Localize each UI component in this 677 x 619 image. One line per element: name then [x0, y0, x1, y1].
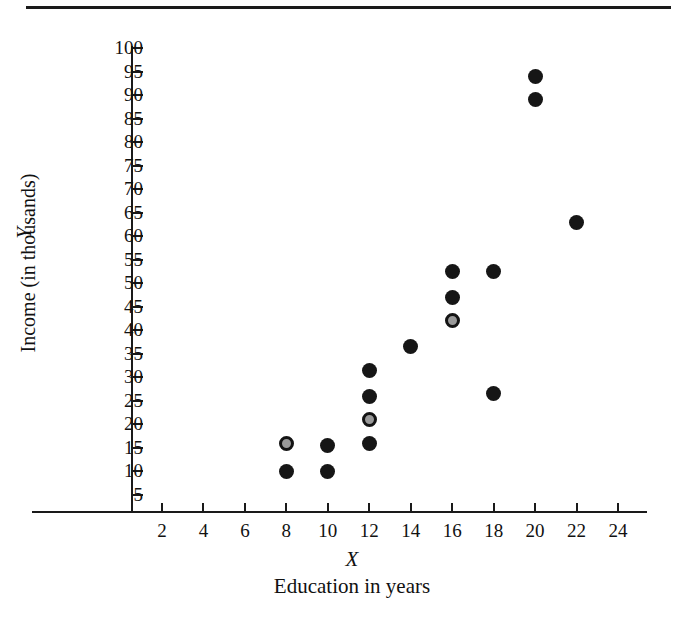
x-axis-subtitle: Education in years: [212, 575, 492, 597]
x-axis-tick-label: 24: [598, 520, 638, 541]
data-point: [445, 264, 460, 279]
y-axis-tick-label: 45: [99, 297, 143, 316]
x-axis-tick-label: 18: [474, 520, 514, 541]
y-axis-tick-label: 90: [99, 85, 143, 104]
x-axis-tick: [451, 503, 453, 513]
data-point: [279, 436, 294, 451]
y-axis-tick-label: 100: [99, 38, 143, 57]
x-axis-tick: [493, 503, 495, 513]
x-axis-tick-label: 14: [391, 520, 431, 541]
y-axis-tick-label-row: 95: [0, 62, 143, 81]
y-axis-tick-label: 20: [99, 414, 143, 433]
y-axis-tick-label-row: 30: [0, 367, 143, 386]
y-axis-tick-label: 15: [99, 438, 143, 457]
x-axis-tick-label: 16: [432, 520, 472, 541]
y-axis-subtitle-container: Income (in thousands): [15, 173, 45, 353]
y-axis-tick-label: 50: [99, 273, 143, 292]
data-point: [362, 363, 377, 378]
y-axis-tick-label-row: 5: [0, 485, 143, 504]
y-axis-tick-label: 30: [99, 367, 143, 386]
scatter-plot-figure: 5101520253035404550556065707580859095100…: [0, 0, 677, 619]
data-point: [486, 264, 501, 279]
y-axis-tick-label: 40: [99, 320, 143, 339]
x-axis-tick: [368, 503, 370, 513]
data-point: [486, 386, 501, 401]
y-axis-tick-label: 95: [99, 62, 143, 81]
data-point: [362, 412, 377, 427]
x-axis-tick-label: 4: [183, 520, 223, 541]
y-axis-tick-label: 55: [99, 250, 143, 269]
y-axis-subtitle: Income (in thousands): [17, 174, 39, 353]
x-axis-line: [32, 511, 647, 513]
y-axis-tick-label-row: 100: [0, 38, 143, 57]
data-point: [569, 215, 584, 230]
data-point: [320, 464, 335, 479]
x-axis-tick-label: 8: [266, 520, 306, 541]
x-axis-title: X: [232, 548, 472, 570]
data-point: [445, 313, 460, 328]
x-axis-tick-label: 6: [225, 520, 265, 541]
y-axis-tick-label: 70: [99, 179, 143, 198]
x-axis-tick: [244, 503, 246, 513]
x-axis-tick: [576, 503, 578, 513]
y-axis-tick-label: 5: [99, 485, 143, 504]
x-axis-tick: [410, 503, 412, 513]
x-axis-tick-label: 22: [557, 520, 597, 541]
y-axis-tick-label-row: 85: [0, 109, 143, 128]
y-axis-tick-label: 80: [99, 132, 143, 151]
y-axis-tick-label: 75: [99, 156, 143, 175]
y-axis-tick-label-row: 20: [0, 414, 143, 433]
data-point: [528, 69, 543, 84]
x-axis-tick: [617, 503, 619, 513]
y-axis-tick-label: 10: [99, 461, 143, 480]
y-axis-tick-label: 65: [99, 203, 143, 222]
x-axis-tick: [327, 503, 329, 513]
y-axis-tick-label-row: 15: [0, 438, 143, 457]
data-point: [362, 389, 377, 404]
x-axis-tick: [534, 503, 536, 513]
data-point: [445, 290, 460, 305]
data-point: [362, 436, 377, 451]
y-axis-tick-label: 25: [99, 391, 143, 410]
data-point: [528, 92, 543, 107]
data-point: [320, 438, 335, 453]
x-axis-tick-label: 10: [308, 520, 348, 541]
y-axis-tick-label-row: 25: [0, 391, 143, 410]
x-axis-tick-label: 2: [142, 520, 182, 541]
y-axis-tick-label-row: 90: [0, 85, 143, 104]
y-axis-tick-label: 85: [99, 109, 143, 128]
data-point: [403, 339, 418, 354]
x-axis-tick-label: 12: [349, 520, 389, 541]
x-axis-tick: [202, 503, 204, 513]
x-axis-tick: [161, 503, 163, 513]
data-point: [279, 464, 294, 479]
x-axis-tick: [285, 503, 287, 513]
x-axis-tick-label: 20: [515, 520, 555, 541]
y-axis-tick-label: 60: [99, 226, 143, 245]
y-axis-tick-label: 35: [99, 344, 143, 363]
y-axis-tick-label-row: 10: [0, 461, 143, 480]
